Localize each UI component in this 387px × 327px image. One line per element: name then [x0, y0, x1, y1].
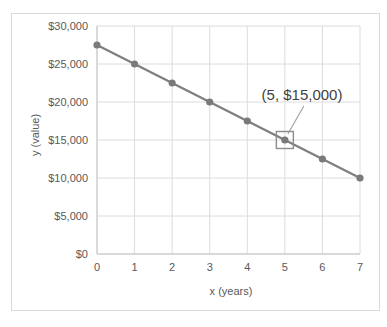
y-tick-label: $5,000	[54, 211, 88, 222]
y-tick-label: $25,000	[48, 59, 88, 70]
x-axis-title: x (years)	[210, 286, 253, 297]
x-tick-label: 1	[132, 262, 138, 273]
x-tick-label: 3	[207, 262, 213, 273]
y-axis-title: y (value)	[30, 114, 41, 156]
x-tick-label: 6	[319, 262, 325, 273]
x-tick-label: 7	[357, 262, 363, 273]
y-tick-label: $30,000	[48, 21, 88, 32]
y-tick-label: $20,000	[48, 97, 88, 108]
x-tick-label: 2	[169, 262, 175, 273]
chart-canvas: $0$5,000$10,000$15,000$20,000$25,000$30,…	[0, 0, 387, 327]
y-tick-label: $10,000	[48, 173, 88, 184]
y-tick-label: $0	[76, 249, 88, 260]
x-tick-label: 5	[282, 262, 288, 273]
x-tick-label: 0	[94, 262, 100, 273]
data-point-annotation: (5, $15,000)	[262, 87, 343, 102]
x-tick-label: 4	[244, 262, 250, 273]
y-tick-label: $15,000	[48, 135, 88, 146]
